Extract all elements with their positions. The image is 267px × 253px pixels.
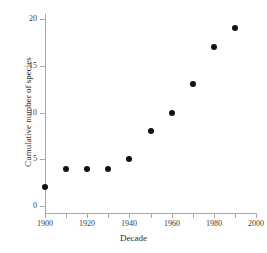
x-axis-tick-label: 2000 [239, 219, 267, 228]
data-point [148, 128, 154, 134]
y-axis-tick-label: 20 [13, 14, 37, 23]
x-axis-tick [87, 213, 88, 218]
data-point [42, 184, 48, 190]
x-axis-tick-label: 1900 [28, 219, 62, 228]
x-axis-tick [214, 213, 215, 218]
data-point [190, 81, 196, 87]
x-axis-tick-label: 1940 [112, 219, 146, 228]
data-point [126, 156, 132, 162]
x-axis-tick-label: 1980 [197, 219, 231, 228]
plot-area: 05101520 190019201940196019802000 [0, 0, 267, 253]
y-axis-tick [40, 19, 45, 20]
x-axis-tick [256, 213, 257, 218]
y-axis-tick [40, 159, 45, 160]
scatter-chart-figure: 05101520 190019201940196019802000 Decade… [0, 0, 267, 253]
y-axis-tick-label: 0 [13, 201, 37, 210]
data-point [105, 166, 111, 172]
y-axis-tick [40, 113, 45, 114]
x-axis-title: Decade [0, 233, 267, 243]
data-point [84, 166, 90, 172]
x-axis-tick [45, 213, 46, 218]
data-point [63, 166, 69, 172]
x-axis-tick [151, 213, 152, 218]
x-axis-tick [129, 213, 130, 218]
y-axis-title: Cumulative number of species [23, 27, 33, 197]
data-point [169, 110, 175, 116]
x-axis-tick-label: 1960 [155, 219, 189, 228]
y-axis-tick [40, 206, 45, 207]
x-axis-tick [172, 213, 173, 218]
x-axis-tick-label: 1920 [70, 219, 104, 228]
data-point [232, 25, 238, 31]
y-axis-tick [40, 66, 45, 67]
x-axis-tick [193, 213, 194, 218]
x-axis-tick [66, 213, 67, 218]
data-point [211, 44, 217, 50]
x-axis-tick [108, 213, 109, 218]
x-axis-tick [235, 213, 236, 218]
